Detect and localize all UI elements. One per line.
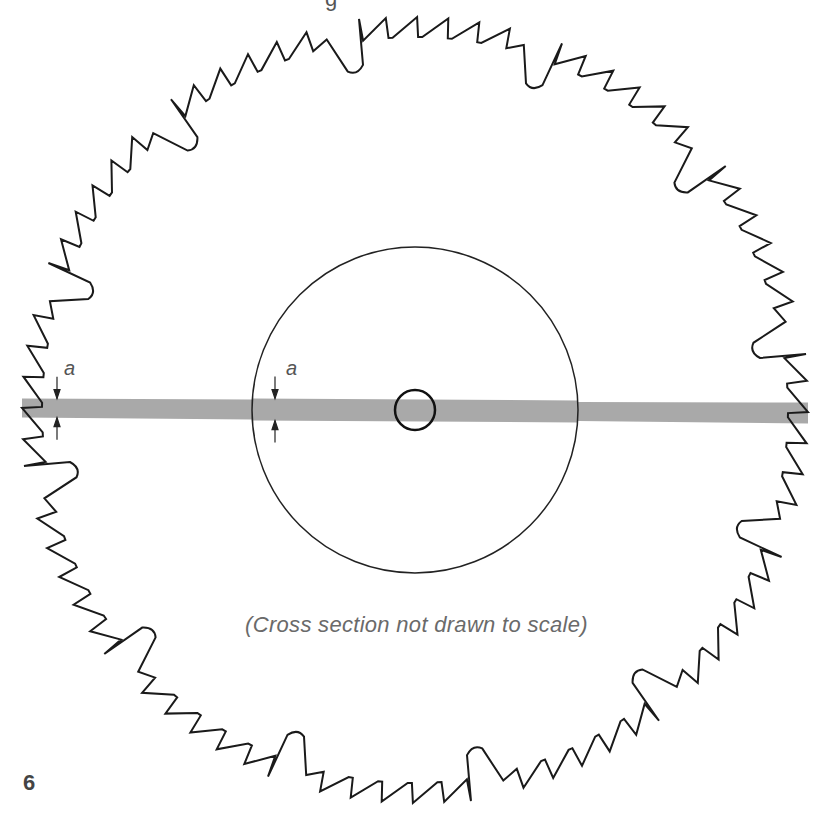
cross-section-band (22, 399, 808, 424)
figure-caption: (Cross section not drawn to scale) (0, 612, 833, 638)
dimension-label-a-hub: a (286, 357, 297, 380)
saw-blade-diagram (0, 0, 833, 833)
dimension-label-a-rim: a (64, 357, 75, 380)
partial-heading-glyph: g (325, 0, 337, 12)
figure-number: 6 (23, 770, 35, 796)
